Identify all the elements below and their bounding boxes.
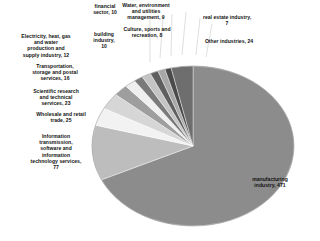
slice-label-wholesale-retail-trade: Wholesale and retail trade, 25	[20, 111, 102, 123]
slice-label-other-industries: Other industries, 24	[190, 38, 268, 44]
slice-label-water-environment-utilities: Water, environment and utilities managem…	[112, 2, 180, 21]
slice-label-manufacturing-industry: manufacturing industry, 471	[238, 176, 302, 188]
slice-label-transportation-storage-postal: Transportation, storage and postal servi…	[12, 63, 98, 82]
slice-label-building-industry: building industry, 10	[86, 31, 122, 50]
slice-label-information-transmission-software-it: Information transmission, software and i…	[14, 133, 98, 170]
slice-label-electricity-heat-gas-water: Electricity, heat, gas and water product…	[2, 33, 90, 58]
chart-canvas: financial sector, 10 Water, environment …	[0, 0, 320, 241]
leader-line	[182, 12, 186, 55]
slice-label-scientific-research-technical: Scientific research and technical servic…	[18, 88, 94, 107]
slice-label-culture-sports-recreation: Culture, sports and recreation, 8	[114, 26, 180, 38]
slice-label-real-estate-industry: real estate industry, 7	[190, 14, 264, 26]
pie-slices	[92, 66, 294, 226]
